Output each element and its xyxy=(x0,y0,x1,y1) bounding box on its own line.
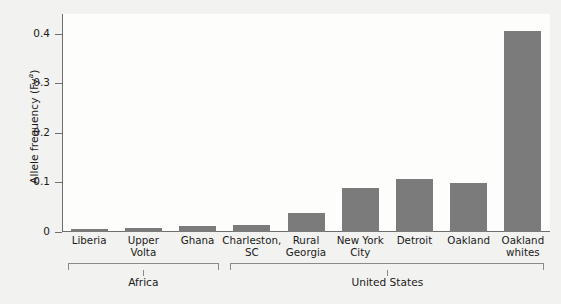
x-category-label-line: City xyxy=(330,247,390,259)
x-category-label-line: Detroit xyxy=(384,235,444,247)
x-category-label-line: Charleston, xyxy=(222,235,282,247)
x-category-label-line: Ghana xyxy=(167,235,227,247)
bar xyxy=(71,229,108,232)
x-category-label: Oakland xyxy=(439,235,499,247)
y-tick-label: 0.1 xyxy=(14,175,50,187)
y-tick-mark xyxy=(55,232,62,233)
y-tick-label: 0.4 xyxy=(14,27,50,39)
y-axis-title-close: ) xyxy=(28,70,40,74)
bar xyxy=(450,183,487,232)
bar xyxy=(125,228,162,232)
x-category-label-line: Upper xyxy=(113,235,173,247)
y-tick-label: 0.3 xyxy=(14,76,50,88)
x-category-label: New YorkCity xyxy=(330,235,390,258)
x-category-label: Charleston,SC xyxy=(222,235,282,258)
x-category-label: Ghana xyxy=(167,235,227,247)
group-bracket xyxy=(68,263,219,270)
group-bracket xyxy=(230,263,544,270)
bar xyxy=(342,188,379,232)
group-label: United States xyxy=(190,276,561,288)
y-tick-label: 0.2 xyxy=(14,126,50,138)
bar xyxy=(504,31,541,232)
bar xyxy=(233,225,270,232)
bar xyxy=(288,213,325,232)
x-category-label-line: SC xyxy=(222,247,282,259)
y-tick-mark xyxy=(55,182,62,183)
x-category-label-line: Liberia xyxy=(59,235,119,247)
bar xyxy=(396,179,433,232)
x-category-label-line: New York xyxy=(330,235,390,247)
figure-container: Allele frequency (Fya) 00.10.20.30.4 Lib… xyxy=(0,0,561,304)
y-tick-mark xyxy=(55,34,62,35)
x-category-label-line: whites xyxy=(493,247,553,259)
x-category-label: Detroit xyxy=(384,235,444,247)
x-category-label-line: Oakland xyxy=(493,235,553,247)
bar xyxy=(179,226,216,232)
x-category-label: Oaklandwhites xyxy=(493,235,553,258)
x-category-label-line: Oakland xyxy=(439,235,499,247)
x-category-label: RuralGeorgia xyxy=(276,235,336,258)
x-category-label-line: Rural xyxy=(276,235,336,247)
x-category-label-line: Volta xyxy=(113,247,173,259)
x-category-label: Liberia xyxy=(59,235,119,247)
bar-series xyxy=(62,14,550,232)
y-tick-label: 0 xyxy=(14,225,50,237)
y-tick-mark xyxy=(55,83,62,84)
y-tick-mark xyxy=(55,133,62,134)
x-category-label: UpperVolta xyxy=(113,235,173,258)
x-category-label-line: Georgia xyxy=(276,247,336,259)
